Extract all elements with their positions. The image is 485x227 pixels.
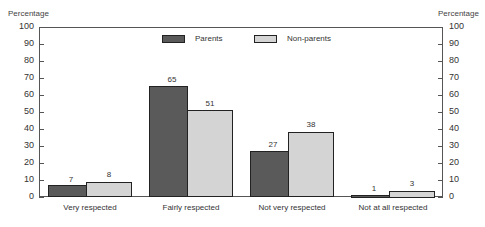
y-tick-left — [39, 112, 44, 113]
bar-nonparents-very-respected — [86, 182, 132, 197]
y-tick-label-right: 40 — [449, 123, 469, 133]
bar-parents-not-at-all-respected — [351, 195, 390, 198]
y-tick-left — [39, 95, 44, 96]
y-tick-label-left: 80 — [14, 55, 34, 65]
y-tick-left — [39, 78, 44, 79]
bar-parents-fairly-respected — [149, 86, 188, 197]
y-tick-label-right: 20 — [449, 157, 469, 167]
y-tick-label-left: 0 — [14, 191, 34, 201]
y-tick-right — [438, 61, 443, 62]
bar-nonparents-not-very-respected — [288, 132, 334, 197]
y-tick-left — [39, 61, 44, 62]
y-tick-right — [438, 163, 443, 164]
y-tick-right — [438, 197, 443, 198]
value-label-parents-not-at-all-respected: 1 — [359, 184, 389, 193]
bar-parents-very-respected — [48, 185, 87, 197]
y-tick-right — [438, 95, 443, 96]
y-tick-label-right: 80 — [449, 55, 469, 65]
y-tick-left — [39, 27, 44, 28]
value-label-nonparents-not-at-all-respected: 3 — [397, 179, 427, 188]
legend-label-nonparents: Non-parents — [287, 34, 331, 43]
legend-label-parents: Parents — [195, 34, 223, 43]
y-tick-label-left: 10 — [14, 174, 34, 184]
y-tick-label-right: 0 — [449, 191, 469, 201]
y-tick-right — [438, 180, 443, 181]
legend-item-nonparents: Non-parents — [254, 34, 331, 43]
value-label-parents-fairly-respected: 65 — [157, 75, 187, 84]
y-tick-right — [438, 27, 443, 28]
y-tick-label-right: 90 — [449, 38, 469, 48]
value-label-parents-very-respected: 7 — [56, 175, 86, 184]
category-label-not-very-respected: Not very respected — [242, 203, 342, 212]
value-label-nonparents-not-very-respected: 38 — [296, 120, 326, 129]
y-tick-label-right: 30 — [449, 140, 469, 150]
y-tick-left — [39, 163, 44, 164]
y-tick-label-left: 90 — [14, 38, 34, 48]
y-tick-left — [39, 180, 44, 181]
value-label-nonparents-very-respected: 8 — [94, 170, 124, 179]
y-tick-label-right: 100 — [449, 21, 469, 31]
y-tick-label-right: 70 — [449, 72, 469, 82]
y-tick-label-left: 50 — [14, 106, 34, 116]
y-tick-right — [438, 44, 443, 45]
y-tick-label-left: 100 — [14, 21, 34, 31]
y-tick-right — [438, 78, 443, 79]
y-tick-left — [39, 146, 44, 147]
y-tick-right — [438, 129, 443, 130]
value-label-nonparents-fairly-respected: 51 — [195, 99, 225, 108]
y-tick-left — [39, 44, 44, 45]
y-axis-title-left: Percentage — [8, 9, 49, 18]
category-label-very-respected: Very respected — [40, 203, 140, 212]
category-label-not-at-all-respected: Not at all respected — [343, 203, 443, 212]
y-tick-right — [438, 146, 443, 147]
y-axis-title-right: Percentage — [438, 9, 479, 18]
y-tick-label-left: 30 — [14, 140, 34, 150]
y-tick-label-left: 40 — [14, 123, 34, 133]
y-tick-label-left: 70 — [14, 72, 34, 82]
y-tick-label-right: 10 — [449, 174, 469, 184]
legend-item-parents: Parents — [162, 34, 223, 43]
legend-swatch-parents — [162, 35, 185, 43]
bar-nonparents-fairly-respected — [187, 110, 233, 197]
y-tick-right — [438, 112, 443, 113]
category-label-fairly-respected: Fairly respected — [141, 203, 241, 212]
bar-nonparents-not-at-all-respected — [389, 191, 435, 198]
legend-swatch-nonparents — [254, 35, 277, 43]
bar-parents-not-very-respected — [250, 151, 289, 197]
value-label-parents-not-very-respected: 27 — [258, 140, 288, 149]
y-tick-label-left: 20 — [14, 157, 34, 167]
y-tick-label-left: 60 — [14, 89, 34, 99]
y-tick-label-right: 50 — [449, 106, 469, 116]
y-tick-label-right: 60 — [449, 89, 469, 99]
y-tick-left — [39, 129, 44, 130]
y-tick-left — [39, 197, 44, 198]
